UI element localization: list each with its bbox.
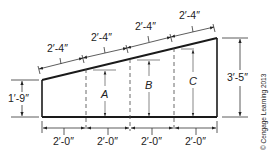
bottom-dimension-labels: 2′-0″ 2′-0″ 2′-0″ 2′-0″	[53, 135, 206, 147]
bottom-dim-4: 2′-0″	[185, 135, 206, 147]
right-height-label: 3′-5″	[227, 71, 248, 83]
label-b: B	[145, 79, 152, 91]
copyright-text: © Cengage Learning 2013	[260, 73, 268, 150]
top-dim-3: 2′-4″	[135, 20, 156, 32]
bottom-dimension-line	[42, 121, 217, 135]
top-dim-2: 2′-4″	[91, 31, 112, 43]
bottom-dim-1: 2′-0″	[53, 135, 74, 147]
left-height-label: 1′-9″	[8, 92, 29, 104]
label-c: C	[189, 75, 197, 87]
wall-diagram: 2′-4″ 2′-4″ 2′-4″ 2′-4″ 1′-9″ 3′-5″ A B …	[0, 0, 278, 160]
bottom-dim-3: 2′-0″	[141, 135, 162, 147]
top-dim-1: 2′-4″	[47, 42, 68, 54]
inner-heights	[93, 49, 194, 116]
top-dim-4: 2′-4″	[179, 9, 200, 21]
dashed-division-lines	[86, 48, 174, 131]
bottom-dim-2: 2′-0″	[97, 135, 118, 147]
label-a: A	[100, 88, 108, 100]
